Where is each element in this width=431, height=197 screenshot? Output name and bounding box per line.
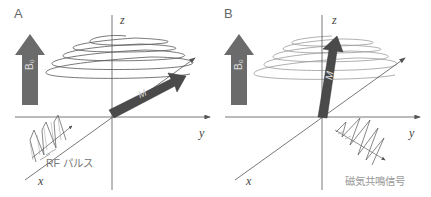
x-axis-label-b: x bbox=[246, 174, 251, 189]
b0-label-b: B₀ bbox=[233, 59, 244, 70]
mr-signal-label: 磁気共鳴信号 bbox=[345, 173, 405, 188]
m-label-b: M bbox=[323, 70, 335, 80]
z-axis-label-a: z bbox=[120, 13, 125, 28]
mr-signal-wave bbox=[335, 118, 385, 165]
b0-label-a: B₀ bbox=[24, 59, 35, 70]
y-axis-label-b: y bbox=[409, 126, 414, 141]
panel-b bbox=[224, 15, 420, 190]
x-axis-label-a: x bbox=[38, 174, 43, 189]
panel-a-label: A bbox=[14, 6, 23, 21]
precession-spiral-a bbox=[46, 35, 193, 78]
y-axis-label-a: y bbox=[199, 126, 204, 141]
panel-b-label: B bbox=[224, 6, 233, 21]
panel-a bbox=[15, 15, 210, 190]
rf-pulse-label: RF パルス bbox=[46, 155, 93, 170]
z-axis-label-b: z bbox=[332, 13, 337, 28]
